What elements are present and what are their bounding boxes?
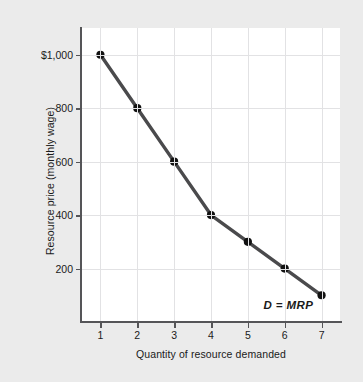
x-tick-label: 2 — [125, 329, 149, 341]
x-tick-mark — [322, 323, 324, 328]
gridline-vertical — [285, 28, 286, 322]
y-tick-label: 600 — [55, 156, 73, 168]
gridline-vertical — [100, 28, 101, 322]
y-tick-mark — [76, 108, 81, 110]
y-tick-mark — [76, 215, 81, 217]
x-tick-mark — [248, 323, 250, 328]
y-tick-label: $1,000 — [41, 49, 73, 61]
gridline-vertical — [137, 28, 138, 322]
y-tick-label: 400 — [55, 209, 73, 221]
curve-label-d-equals-mrp: D = MRP — [264, 299, 314, 311]
x-tick-label: 7 — [310, 329, 334, 341]
x-tick-mark — [211, 323, 213, 328]
x-tick-mark — [100, 323, 102, 328]
y-tick-mark — [76, 269, 81, 271]
y-tick-label: 800 — [55, 102, 73, 114]
gridline-vertical — [322, 28, 323, 322]
x-tick-label: 3 — [162, 329, 186, 341]
gridline-vertical — [211, 28, 212, 322]
x-tick-mark — [285, 323, 287, 328]
x-tick-label: 6 — [273, 329, 297, 341]
x-tick-label: 1 — [88, 329, 112, 341]
gridline-vertical — [248, 28, 249, 322]
y-axis-title: Resource price (monthly wage) — [44, 66, 56, 296]
y-tick-label: 200 — [55, 263, 73, 275]
x-tick-mark — [137, 323, 139, 328]
y-tick-mark — [76, 162, 81, 164]
chart-figure: Resource price (monthly wage) Quantity o… — [0, 0, 363, 382]
gridline-vertical — [174, 28, 175, 322]
x-tick-label: 4 — [199, 329, 223, 341]
y-tick-mark — [76, 55, 81, 57]
plot-area — [82, 28, 340, 322]
x-tick-mark — [174, 323, 176, 328]
x-tick-label: 5 — [236, 329, 260, 341]
y-axis-line — [80, 27, 82, 323]
x-axis-title: Quantity of resource demanded — [82, 348, 340, 360]
